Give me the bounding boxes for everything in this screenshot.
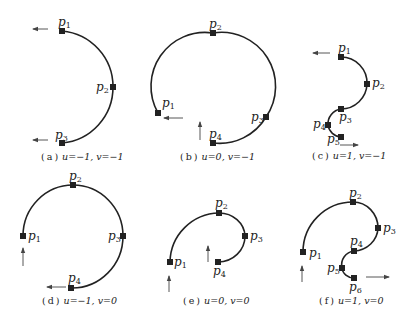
point-label-p6: p6 bbox=[349, 280, 362, 295]
caption-e: (e)u=0,v=0 bbox=[183, 295, 250, 306]
point-label-p2: p2 bbox=[349, 186, 362, 201]
panel-e: p1 p2 p3 p4 (e)u=0,v=0 bbox=[167, 196, 263, 306]
caption-a: (a)u=−1,v=−1 bbox=[41, 151, 124, 162]
caption-f: (f)u=1,v=0 bbox=[319, 295, 384, 306]
caption-c: (c)u=1,v=−1 bbox=[312, 150, 386, 161]
point-label-p2: p2 bbox=[215, 196, 228, 211]
point-label-p2: p2 bbox=[209, 17, 222, 32]
panel-f: p1 p2 p3 p4 p5 p6 (f)u=1,v=0 bbox=[300, 186, 396, 306]
point-label-p4: p4 bbox=[209, 127, 222, 142]
point-label-p1: p1 bbox=[58, 15, 71, 30]
point-marker-p3 bbox=[263, 114, 269, 120]
point-marker-p2 bbox=[364, 81, 370, 87]
caption-d: (d)u=−1,v=0 bbox=[42, 295, 117, 306]
point-marker-p4 bbox=[68, 285, 74, 291]
point-marker-p5 bbox=[339, 265, 345, 271]
point-label-p2: p2 bbox=[372, 76, 385, 91]
point-label-p4: p4 bbox=[68, 271, 81, 286]
point-label-p3: p3 bbox=[250, 229, 263, 244]
point-marker-p3 bbox=[375, 225, 381, 231]
point-marker-p4 bbox=[325, 122, 331, 128]
curve-figure: p1 p2 p3 (a)u=−1,v=−1 p1 p2 p3 p4 (b)u=0… bbox=[0, 0, 410, 326]
point-label-p5: p5 bbox=[327, 132, 340, 147]
point-marker-p1 bbox=[300, 249, 306, 255]
point-label-p3: p3 bbox=[251, 110, 264, 125]
point-label-p5: p5 bbox=[327, 261, 340, 276]
point-label-p4: p4 bbox=[213, 264, 226, 279]
point-marker-p4 bbox=[351, 248, 357, 254]
point-label-p1: p1 bbox=[174, 255, 187, 270]
point-marker-p2 bbox=[110, 84, 116, 90]
point-marker-p2 bbox=[216, 210, 222, 216]
point-label-p3: p3 bbox=[383, 221, 396, 236]
point-label-p2: p2 bbox=[96, 80, 109, 95]
caption-b: (b)u=0,v=−1 bbox=[180, 151, 255, 162]
panel-c: p1 p2 p3 p4 p5 (c)u=1,v=−1 bbox=[312, 41, 386, 161]
point-marker-p3 bbox=[120, 233, 126, 239]
point-label-p3: p3 bbox=[339, 110, 352, 125]
panel-a: p1 p2 p3 (a)u=−1,v=−1 bbox=[33, 15, 124, 162]
figure-canvas: p1 p2 p3 (a)u=−1,v=−1 p1 p2 p3 p4 (b)u=0… bbox=[0, 0, 410, 326]
point-label-p4: p4 bbox=[350, 234, 363, 249]
point-marker-p1 bbox=[155, 110, 161, 116]
point-label-p3: p3 bbox=[55, 128, 68, 143]
point-label-p1: p1 bbox=[309, 246, 322, 261]
point-label-p1: p1 bbox=[28, 229, 41, 244]
panel-b: p1 p2 p3 p4 (b)u=0,v=−1 bbox=[151, 17, 276, 162]
point-label-p2: p2 bbox=[69, 169, 82, 184]
panel-d: p1 p2 p3 p4 (d)u=−1,v=0 bbox=[20, 169, 126, 306]
point-label-p1: p1 bbox=[338, 41, 351, 56]
point-label-p3: p3 bbox=[108, 229, 121, 244]
curve-c bbox=[328, 57, 367, 137]
point-label-p4: p4 bbox=[313, 117, 326, 132]
point-marker-p1 bbox=[20, 233, 26, 239]
point-label-p1: p1 bbox=[162, 96, 175, 111]
markers-f bbox=[300, 199, 381, 281]
point-marker-p3 bbox=[242, 233, 248, 239]
point-marker-p1 bbox=[167, 259, 173, 265]
